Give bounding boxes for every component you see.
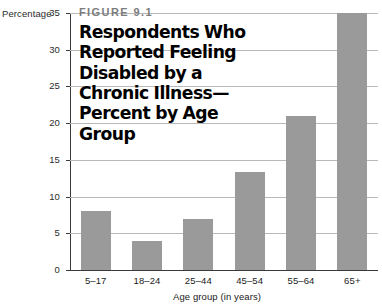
x-category-label-45–54: 45–54 — [224, 275, 276, 286]
bar-45–54 — [235, 172, 265, 270]
figure-9-1-bar-chart: Percentage 05101520253035 5–1718–2425–44… — [0, 0, 382, 308]
figure-number-label: FIGURE 9.1 — [79, 6, 275, 18]
y-tick-mark-30 — [66, 50, 70, 51]
y-tick-label-25: 25 — [38, 80, 60, 91]
y-tick-mark-5 — [66, 233, 70, 234]
figure-title: Respondents Who Reported Feeling Disable… — [79, 22, 261, 144]
y-tick-label-35: 35 — [38, 7, 60, 18]
gridline-0 — [70, 270, 378, 271]
x-category-label-65+: 65+ — [326, 275, 378, 286]
y-tick-label-10: 10 — [38, 191, 60, 202]
y-tick-mark-35 — [66, 13, 70, 14]
bar-25–44 — [183, 219, 213, 270]
y-tick-mark-20 — [66, 123, 70, 124]
y-tick-mark-10 — [66, 197, 70, 198]
y-tick-label-15: 15 — [38, 154, 60, 165]
y-tick-mark-0 — [66, 270, 70, 271]
y-tick-label-5: 5 — [38, 227, 60, 238]
x-category-label-55–64: 55–64 — [275, 275, 327, 286]
y-tick-label-20: 20 — [38, 117, 60, 128]
bar-55–64 — [286, 116, 316, 270]
x-category-label-5–17: 5–17 — [70, 275, 122, 286]
gridline-10 — [70, 197, 378, 198]
x-axis-title: Age group (in years) — [0, 291, 382, 302]
figure-caption: FIGURE 9.1 Respondents Who Reported Feel… — [79, 6, 275, 144]
gridline-5 — [70, 233, 378, 234]
y-tick-label-30: 30 — [38, 44, 60, 55]
bar-5–17 — [81, 211, 111, 270]
gridline-15 — [70, 160, 378, 161]
y-tick-mark-25 — [66, 86, 70, 87]
y-tick-label-0: 0 — [38, 264, 60, 275]
y-tick-mark-15 — [66, 160, 70, 161]
x-category-label-25–44: 25–44 — [172, 275, 224, 286]
bar-18–24 — [132, 241, 162, 270]
bar-65+ — [337, 13, 367, 270]
x-category-label-18–24: 18–24 — [121, 275, 173, 286]
